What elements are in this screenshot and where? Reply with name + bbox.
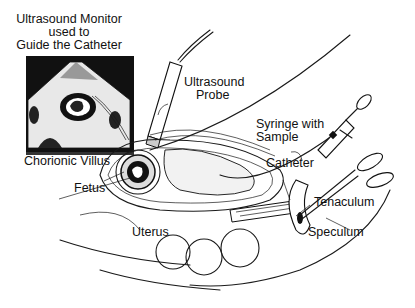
monitor-caption: Ultrasound Monitor used to Guide the Cat… [4, 13, 134, 52]
ultrasound-monitor-inset [26, 56, 134, 155]
fetus-sac [116, 150, 160, 194]
label-uterus: Uterus [132, 226, 169, 239]
label-tenaculum: Tenaculum [314, 196, 374, 209]
placenta [164, 149, 254, 195]
label-probe: Probe [184, 89, 244, 102]
bowel-loops [60, 212, 259, 290]
cvs-diagram: Ultrasound Monitor used to Guide the Cat… [0, 0, 415, 308]
label-catheter: Catheter [266, 157, 314, 170]
label-ultrasound-probe: Ultrasound Probe [184, 76, 244, 102]
syringe [318, 92, 374, 158]
label-fetus: Fetus [74, 182, 105, 195]
label-syringe-line2: Sample [256, 131, 324, 144]
label-speculum: Speculum [308, 226, 364, 239]
label-chorionic-villus: Chorionic Villus [24, 155, 110, 168]
label-syringe: Syringe with Sample [256, 118, 324, 144]
caption-line-3: Guide the Catheter [4, 39, 134, 52]
